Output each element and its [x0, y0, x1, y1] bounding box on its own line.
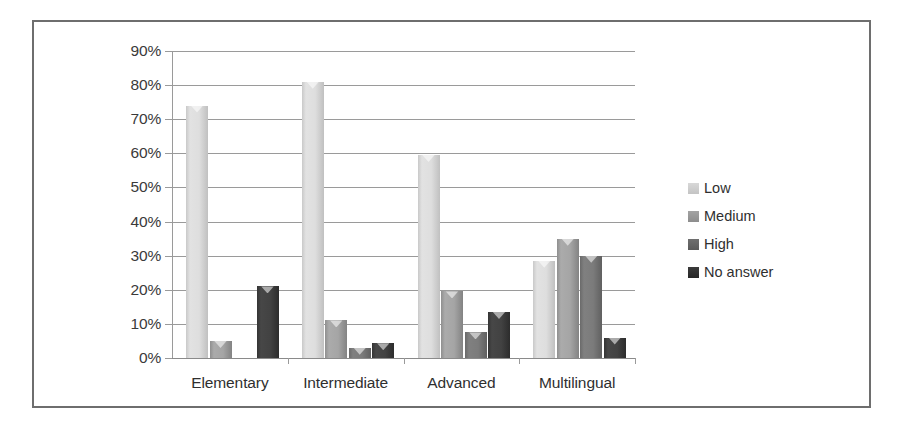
x-axis-label: Elementary — [191, 374, 268, 392]
y-axis-label: 50% — [131, 178, 161, 196]
bar — [210, 341, 232, 358]
legend-item: High — [688, 236, 773, 252]
bar — [302, 82, 324, 358]
bar — [257, 286, 279, 358]
bar — [325, 320, 347, 358]
bar — [418, 155, 440, 358]
x-axis-tick — [635, 358, 636, 364]
plot-area: 0%10%20%30%40%50%60%70%80%90% Elementary… — [172, 51, 635, 358]
chart-legend: LowMediumHighNo answer — [688, 180, 773, 292]
legend-swatch-icon — [688, 267, 699, 278]
legend-label: Medium — [704, 208, 756, 224]
bar-group: Multilingual — [519, 51, 635, 358]
y-axis-tick — [165, 290, 172, 291]
legend-label: Low — [704, 180, 731, 196]
legend-item: Medium — [688, 208, 773, 224]
y-axis-tick — [165, 153, 172, 154]
y-axis-label: 40% — [131, 213, 161, 231]
y-axis-tick — [165, 256, 172, 257]
y-axis-tick — [165, 324, 172, 325]
y-axis-label: 20% — [131, 281, 161, 299]
x-axis-label: Multilingual — [539, 374, 615, 392]
y-axis-label: 30% — [131, 247, 161, 265]
bar-group: Intermediate — [288, 51, 404, 358]
bar — [186, 106, 208, 358]
legend-swatch-icon — [688, 211, 699, 222]
y-axis-tick — [165, 187, 172, 188]
bar — [488, 312, 510, 358]
x-axis-tick — [404, 358, 405, 364]
bar — [441, 291, 463, 358]
y-axis-tick — [165, 85, 172, 86]
legend-swatch-icon — [688, 239, 699, 250]
x-axis-tick — [288, 358, 289, 364]
bar — [465, 332, 487, 358]
bar — [604, 338, 626, 358]
y-axis-tick — [165, 119, 172, 120]
legend-item: Low — [688, 180, 773, 196]
bar-group: Elementary — [172, 51, 288, 358]
y-axis-tick — [165, 51, 172, 52]
x-axis-tick — [519, 358, 520, 364]
legend-label: High — [704, 236, 734, 252]
y-axis-label: 0% — [139, 349, 161, 367]
x-axis-label: Intermediate — [303, 374, 388, 392]
y-axis-label: 80% — [131, 76, 161, 94]
legend-swatch-icon — [688, 183, 699, 194]
bar — [557, 239, 579, 358]
bar — [349, 348, 371, 358]
y-axis-label: 60% — [131, 144, 161, 162]
y-axis-tick — [165, 222, 172, 223]
x-axis-label: Advanced — [427, 374, 495, 392]
bar-group: Advanced — [404, 51, 520, 358]
bar — [372, 343, 394, 358]
bar — [580, 256, 602, 358]
y-axis-tick — [165, 358, 172, 359]
chart-frame: 0%10%20%30%40%50%60%70%80%90% Elementary… — [32, 20, 871, 408]
y-axis-label: 90% — [131, 42, 161, 60]
y-axis-label: 70% — [131, 110, 161, 128]
legend-item: No answer — [688, 264, 773, 280]
bar — [533, 261, 555, 358]
y-axis-label: 10% — [131, 315, 161, 333]
legend-label: No answer — [704, 264, 773, 280]
